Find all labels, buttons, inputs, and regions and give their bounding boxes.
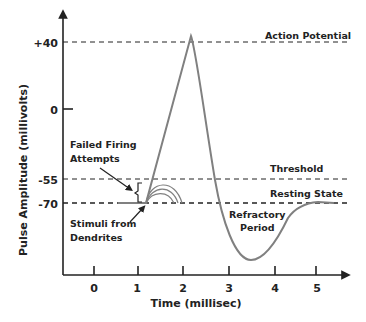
failed-attempts-brace [135,183,142,202]
threshold-label: Threshold [270,163,323,174]
failed-firing-label-1: Failed Firing [70,139,137,150]
refractory-label-1: Refractory [229,209,286,220]
x-tick-label-4: 4 [271,282,279,295]
y-tick-label-m70: -70 [38,198,58,211]
stimuli-label-2: Dendrites [70,232,123,243]
x-tick-label-5: 5 [313,282,321,295]
y-tick-label-0: 0 [50,104,58,117]
x-tick-label-3: 3 [225,282,233,295]
y-tick-label-m55: -55 [38,174,58,187]
failed-firing-label-2: Attempts [70,153,120,164]
action-potential-curve [118,36,334,260]
stimuli-label-1: Stimuli from [70,218,136,229]
action-potential-chart: +40 0 -55 -70 0 1 2 3 4 5 Time (millisec… [0,0,366,322]
refractory-label-2: Period [240,222,275,233]
x-tick-label-0: 0 [90,282,98,295]
x-tick-label-2: 2 [179,282,187,295]
y-axis-title: Pulse Amplitude (millivolts) [17,84,30,256]
resting-state-label: Resting State [270,188,343,199]
x-ticks [94,266,316,275]
failed-attempts-arrow [100,168,130,189]
x-axis-title: Time (millisec) [150,297,241,310]
failed-attempts-curves [146,185,182,203]
action-potential-label: Action Potential [265,30,351,41]
x-tick-label-1: 1 [133,282,141,295]
y-tick-label-40: +40 [33,37,58,50]
